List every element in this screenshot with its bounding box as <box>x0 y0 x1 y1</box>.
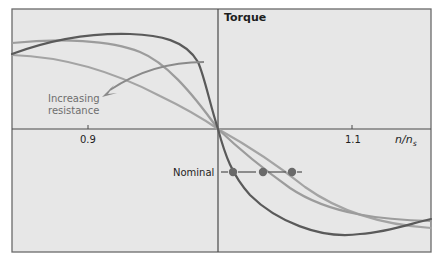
tick-label-1-1: 1.1 <box>345 134 361 145</box>
nominal-label: Nominal <box>173 167 214 178</box>
annotation-line-1: Increasing <box>48 93 100 104</box>
nominal-point-mid-resistance <box>259 168 267 176</box>
torque-speed-chart: Torque 0.9 1.1 n/ns Increasing resistanc… <box>0 0 440 263</box>
nominal-point-high-resistance <box>288 168 296 176</box>
speed-axis-label-main: n/n <box>395 133 413 146</box>
speed-axis-label-sub: s <box>413 139 417 148</box>
torque-axis-label: Torque <box>224 11 266 24</box>
tick-label-0-9: 0.9 <box>80 134 96 145</box>
nominal-point-low-resistance <box>229 168 237 176</box>
annotation-line-2: resistance <box>48 105 99 116</box>
